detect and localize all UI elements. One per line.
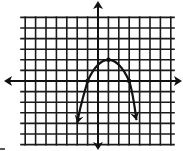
parabola-graph bbox=[0, 0, 183, 151]
marked-point bbox=[127, 79, 131, 83]
marked-point bbox=[106, 58, 110, 62]
marked-point bbox=[85, 79, 89, 83]
axes bbox=[4, 1, 182, 150]
